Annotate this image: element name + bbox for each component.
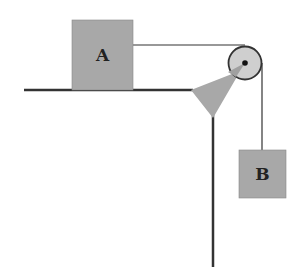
block-b-label: B: [255, 164, 269, 184]
block-a-label: A: [95, 45, 110, 65]
pulley-diagram: A B: [0, 0, 303, 279]
pulley-axle: [242, 60, 248, 66]
